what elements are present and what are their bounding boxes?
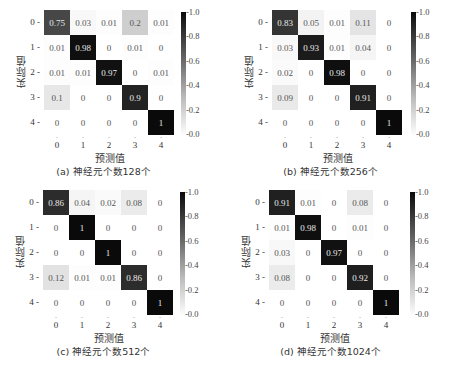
heatmap-cell: 0.01 [96,10,122,35]
tick-text: 4 [387,140,392,150]
heatmap-cell: 0 [121,240,147,265]
heatmap-cell: 0.83 [272,10,298,35]
y-tick-label: 4 - [254,117,268,127]
heatmap-cell: 0 [373,265,399,290]
x-tick-label: ·2 [321,316,347,330]
heatmap-grid: 0.830.050.010.1100.030.930.010.0400.0200… [272,10,402,135]
colorbar-tick-label: -0.0 [185,309,198,319]
heatmap-cell: 0 [324,85,350,110]
tick-text: 1 [309,140,314,150]
heatmap-cell: 0.1 [44,85,70,110]
heatmap-cell: 0 [321,265,347,290]
tick-text: 0 [283,140,288,150]
heatmap-cell: 0 [321,290,347,315]
colorbar-tick-label: -0.0 [415,309,428,319]
panel-caption: (c) 神经元个数512个 [0,344,217,358]
heatmap-cell: 0.98 [324,60,350,85]
y-tick-label: 0 - [254,17,268,27]
heatmap-cell: 0.97 [96,60,122,85]
heatmap-cell: 1 [69,215,95,240]
heatmap-cell: 0.05 [298,10,324,35]
heatmap-cell: 1 [148,110,174,135]
y-tick-label: 1 - [26,42,40,52]
heatmap-cell: 0 [121,290,147,315]
heatmap-cell: 0.98 [70,35,96,60]
heatmap-cell: 0.01 [70,60,96,85]
y-axis-label: 实际值 [13,235,28,268]
colorbar-tick-label: -0.6 [416,56,429,66]
colorbar-tick-label: -0.6 [185,236,198,246]
heatmap-cell: 0.04 [350,35,376,60]
y-tick-label: 1 - [251,222,265,232]
heatmap-panel: 0.860.040.020.08001000001000.120.010.010… [0,186,227,372]
x-tick-label: ·0 [272,136,298,150]
y-axis-label: 实际值 [14,55,29,88]
heatmap-cell: 0 [350,110,376,135]
heatmap-cell: 0 [321,215,347,240]
heatmap-cell: 0 [70,110,96,135]
x-tick-label: ·4 [373,316,399,330]
heatmap-cell: 0.01 [44,35,70,60]
heatmap-cell: 0 [298,110,324,135]
heatmap-panel: 0.750.030.010.20.010.010.9800.0100.010.0… [0,0,227,186]
heatmap-cell: 0.01 [269,215,295,240]
heatmap-cell: 0.11 [350,10,376,35]
colorbar-tick-label: -0.6 [186,56,199,66]
heatmap-cell: 0.01 [122,35,148,60]
heatmap-cell: 0.08 [269,265,295,290]
y-tick-label: 4 - [25,297,39,307]
tick-text: 2 [107,140,112,150]
panel-caption: (a) 神经元个数128个 [0,164,217,178]
heatmap-cell: 1 [376,110,402,135]
heatmap-cell: 0 [43,240,69,265]
colorbar-tick-label: -0.8 [185,211,198,221]
heatmap-cell: 0.09 [272,85,298,110]
heatmap-cell: 0 [122,110,148,135]
heatmap-cell: 0 [347,290,373,315]
x-tick-label: ·2 [95,316,121,330]
heatmap-cell: 0 [321,190,347,215]
heatmap-cell: 0.91 [269,190,295,215]
x-tick-label: ·3 [347,316,373,330]
tick-text: 2 [335,140,340,150]
heatmap-cell: 0.01 [148,10,174,35]
x-tick-label: ·1 [69,316,95,330]
x-axis-label: 预测值 [269,330,400,345]
heatmap-cell: 0 [373,215,399,240]
tick-text: 4 [384,320,389,330]
x-tick-label: ·1 [70,136,96,150]
tick-text: 3 [361,140,366,150]
heatmap-cell: 0.98 [295,215,321,240]
tick-text: 1 [80,320,85,330]
heatmap-cell: 0 [96,35,122,60]
heatmap-cell: 0 [295,265,321,290]
x-tick-label: ·0 [269,316,295,330]
x-tick-label: ·1 [298,136,324,150]
heatmap-cell: 0.97 [321,240,347,265]
heatmap-cell: 0 [269,290,295,315]
heatmap-cell: 0.01 [324,35,350,60]
heatmap-cell: 0.08 [121,190,147,215]
heatmap-cell: 0.86 [43,190,69,215]
y-tick-label: 4 - [251,297,265,307]
y-tick-label: 0 - [26,17,40,27]
tick-text: 0 [55,140,60,150]
heatmap-cell: 0.01 [95,265,121,290]
heatmap-cell: 0 [376,10,402,35]
heatmap-grid: 0.750.030.010.20.010.010.9800.0100.010.0… [44,10,174,135]
heatmap-cell: 0 [43,215,69,240]
y-axis-label: 实际值 [239,235,254,268]
colorbar-tick-label: -0.4 [415,260,428,270]
colorbar-tick-label: -0.0 [416,129,429,139]
x-axis-label: 预测值 [272,150,403,165]
colorbar-tick-label: -0.2 [416,105,429,115]
heatmap-panel: 0.830.050.010.1100.030.930.010.0400.0200… [227,0,454,186]
colorbar-tick-label: -0.8 [186,31,199,41]
tick-text: 3 [133,140,138,150]
colorbar-tick-label: -1.0 [185,187,198,197]
panel-caption: (d) 神经元个数1024个 [217,344,444,358]
colorbar-tick-label: -0.4 [416,80,429,90]
heatmap-cell: 0 [70,85,96,110]
heatmap-cell: 0.75 [44,10,70,35]
heatmap-cell: 0.2 [122,10,148,35]
